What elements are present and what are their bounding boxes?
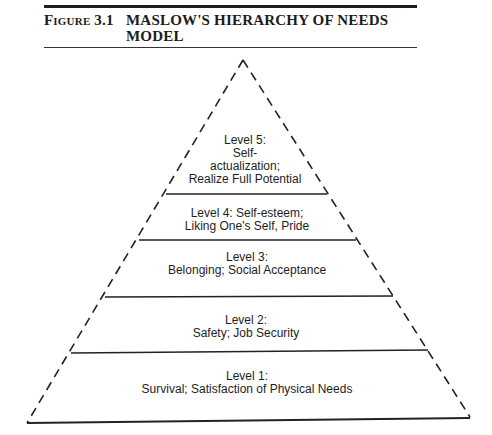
level-5-label: Level 5: Self- actualization; Realize Fu…: [189, 134, 302, 186]
pyramid-base: [27, 418, 470, 423]
level-1-label: Level 1: Survival; Satisfaction of Physi…: [142, 370, 353, 396]
divider-level2-level1: [71, 350, 428, 353]
pyramid-left-edge: [27, 60, 243, 423]
level-2-label: Level 2: Safety; Job Security: [193, 314, 300, 340]
pyramid-right-edge: [243, 60, 470, 417]
divider-level3-level2: [105, 296, 393, 297]
level-4-label: Level 4: Self-esteem; Liking One's Self,…: [185, 207, 309, 233]
level-3-label: Level 3: Belonging; Social Acceptance: [168, 251, 326, 277]
